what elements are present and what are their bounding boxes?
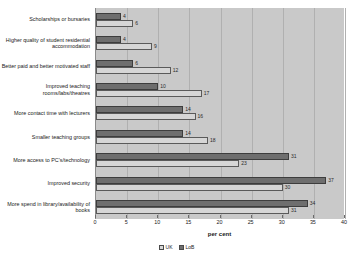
legend-label: LoB [186, 244, 195, 250]
category-label: Improved security [0, 172, 93, 195]
tick-mark [313, 215, 314, 218]
bar-value-label: 31 [291, 207, 297, 214]
bar-uk [96, 184, 283, 191]
category-label: More contact time with lecturers [0, 102, 93, 125]
bar-lob [96, 36, 121, 43]
tick-mark [157, 215, 158, 218]
x-tick-label: 40 [341, 219, 347, 225]
bar-uk [96, 113, 196, 120]
category-axis-labels: Scholarships or bursariesHigher quality … [0, 8, 93, 219]
bar-group-lob: 6 [96, 60, 344, 67]
category-label: More spend in library/availability of bo… [0, 196, 93, 219]
bar-lob [96, 83, 158, 90]
bar-row: 1416 [96, 102, 344, 125]
bar-group-uk: 18 [96, 137, 344, 144]
bar-group-lob: 14 [96, 106, 344, 113]
bar-uk [96, 137, 208, 144]
bar-group-uk: 31 [96, 207, 344, 214]
bar-value-label: 6 [135, 20, 138, 27]
bar-group-lob: 34 [96, 200, 344, 207]
bar-lob [96, 60, 133, 67]
legend-item-lob[interactable]: LoB [179, 244, 195, 250]
bar-value-label: 34 [310, 200, 316, 207]
bar-value-label: 14 [185, 130, 191, 137]
bar-value-label: 23 [241, 160, 247, 167]
bar-lob [96, 13, 121, 20]
bar-value-label: 10 [160, 83, 166, 90]
bar-lob [96, 130, 183, 137]
tick-mark [251, 215, 252, 218]
bar-uk [96, 160, 239, 167]
bar-value-label: 6 [135, 60, 138, 67]
tick-mark [126, 215, 127, 218]
category-label: Improved teaching rooms/labs/theatres [0, 78, 93, 101]
legend-swatch-icon [159, 245, 164, 250]
tick-mark [282, 215, 283, 218]
bar-uk [96, 20, 133, 27]
x-tick-label: 20 [217, 219, 223, 225]
bar-group-uk: 30 [96, 184, 344, 191]
bar-uk [96, 43, 152, 50]
bar-value-label: 9 [154, 43, 157, 50]
bar-value-label: 17 [204, 90, 210, 97]
bar-value-label: 14 [185, 106, 191, 113]
bar-row: 612 [96, 55, 344, 78]
legend-swatch-icon [179, 245, 184, 250]
bar-chart: 4649612101714161418312337303431 Scholars… [0, 0, 353, 256]
bar-row: 49 [96, 31, 344, 54]
x-tick-label: 10 [154, 219, 160, 225]
bar-group-lob: 37 [96, 177, 344, 184]
bar-row: 3123 [96, 149, 344, 172]
bar-value-label: 16 [198, 113, 204, 120]
tick-mark [344, 215, 345, 218]
bar-group-uk: 6 [96, 20, 344, 27]
bar-group-lob: 4 [96, 13, 344, 20]
category-label: Higher quality of student residential ac… [0, 31, 93, 54]
legend-item-uk[interactable]: UK [159, 244, 173, 250]
legend-label: UK [166, 244, 173, 250]
bar-group-uk: 17 [96, 90, 344, 97]
bar-group-lob: 4 [96, 36, 344, 43]
bar-group-uk: 23 [96, 160, 344, 167]
gridline [345, 8, 346, 219]
bar-value-label: 37 [328, 177, 334, 184]
bar-rows: 4649612101714161418312337303431 [96, 8, 344, 219]
x-tick-label: 30 [279, 219, 285, 225]
tick-mark [188, 215, 189, 218]
bar-group-uk: 16 [96, 113, 344, 120]
chart-legend: UKLoB [0, 244, 353, 250]
bar-value-label: 18 [210, 137, 216, 144]
bar-uk [96, 207, 289, 214]
bar-lob [96, 153, 289, 160]
bar-group-uk: 12 [96, 67, 344, 74]
bar-group-lob: 14 [96, 130, 344, 137]
category-label: Smaller teaching groups [0, 125, 93, 148]
bar-lob [96, 177, 326, 184]
bar-lob [96, 106, 183, 113]
category-label: More access to PC's/technology [0, 149, 93, 172]
bar-uk [96, 67, 171, 74]
bar-lob [96, 200, 308, 207]
x-tick-label: 0 [94, 219, 97, 225]
x-axis-title: per cent [95, 231, 344, 237]
bar-row: 46 [96, 8, 344, 31]
x-tick-label: 15 [185, 219, 191, 225]
bar-uk [96, 90, 202, 97]
tick-mark [220, 215, 221, 218]
bar-row: 3730 [96, 172, 344, 195]
bar-value-label: 31 [291, 153, 297, 160]
bar-value-label: 30 [285, 184, 291, 191]
bar-group-lob: 10 [96, 83, 344, 90]
bar-value-label: 4 [123, 13, 126, 20]
bar-group-lob: 31 [96, 153, 344, 160]
x-tick-label: 25 [248, 219, 254, 225]
x-tick-label: 35 [310, 219, 316, 225]
tick-mark [95, 215, 96, 218]
x-tick-label: 5 [125, 219, 128, 225]
bar-row: 1418 [96, 125, 344, 148]
bar-value-label: 4 [123, 36, 126, 43]
x-axis: 0510152025303540 [95, 219, 344, 231]
category-label: Better paid and better motivated staff [0, 55, 93, 78]
plot-area: 4649612101714161418312337303431 [95, 8, 344, 219]
bar-value-label: 12 [173, 67, 179, 74]
